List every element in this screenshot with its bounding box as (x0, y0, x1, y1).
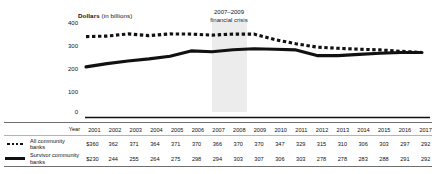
solid-line-swatch-icon (5, 157, 25, 160)
cell-all-2015: 303 (374, 141, 395, 147)
table-header-row: Year 2001 2002 2003 2004 2005 2006 2007 … (0, 125, 436, 134)
cell-all-2001: $360 (82, 141, 103, 147)
table-rule-bottom (4, 166, 432, 167)
header-year-2009: 2009 (250, 127, 271, 133)
cell-all-2013: 310 (332, 141, 353, 147)
header-year-2011: 2011 (291, 127, 312, 133)
cell-all-2009: 370 (249, 141, 270, 147)
header-year-2007: 2007 (208, 127, 229, 133)
header-year-label: Year (30, 126, 84, 132)
cell-surv-2012: 278 (311, 156, 332, 162)
header-year-2013: 2013 (332, 127, 353, 133)
table-row: All community banks $360 362 371 364 371… (0, 137, 436, 151)
header-year-2015: 2015 (374, 127, 395, 133)
table-row: Survivor community banks $230 244 255 26… (0, 152, 436, 165)
cell-all-2012: 315 (311, 141, 332, 147)
series-survivor-community-banks-line (86, 49, 422, 67)
legend-swatch-all-community-banks (0, 143, 30, 146)
header-year-2005: 2005 (167, 127, 188, 133)
chart-svg (0, 0, 436, 122)
cell-surv-2005: 275 (165, 156, 186, 162)
data-table: Year 2001 2002 2003 2004 2005 2006 2007 … (0, 122, 436, 174)
row-label-all-community-banks: All community banks (30, 138, 82, 151)
cell-all-2002: 362 (103, 141, 124, 147)
row-label-survivor-community-banks: Survivor community banks (30, 152, 82, 165)
cell-surv-2011: 303 (290, 156, 311, 162)
chart-figure: Dollars (in billions) 2007–2009 financia… (0, 0, 436, 174)
header-year-2001: 2001 (84, 127, 105, 133)
cell-all-2011: 329 (290, 141, 311, 147)
cell-surv-2003: 255 (124, 156, 145, 162)
cell-surv-2016: 291 (394, 156, 415, 162)
header-year-2017: 2017 (415, 127, 436, 133)
plot-area: Dollars (in billions) 2007–2009 financia… (0, 0, 436, 122)
legend-swatch-survivor-community-banks (0, 157, 30, 160)
cell-surv-2010: 306 (269, 156, 290, 162)
cell-all-2016: 297 (394, 141, 415, 147)
header-year-2010: 2010 (270, 127, 291, 133)
header-year-2003: 2003 (125, 127, 146, 133)
header-year-2006: 2006 (188, 127, 209, 133)
cell-all-2004: 364 (144, 141, 165, 147)
cell-surv-2007: 294 (207, 156, 228, 162)
cell-surv-2017: 292 (415, 156, 436, 162)
cell-surv-2009: 307 (249, 156, 270, 162)
header-year-2008: 2008 (229, 127, 250, 133)
cell-surv-2004: 264 (144, 156, 165, 162)
header-year-2002: 2002 (105, 127, 126, 133)
cell-all-2010: 347 (269, 141, 290, 147)
header-year-2016: 2016 (395, 127, 416, 133)
table-rule-top (4, 122, 432, 123)
cell-surv-2013: 278 (332, 156, 353, 162)
cell-surv-2006: 298 (186, 156, 207, 162)
cell-surv-2008: 303 (228, 156, 249, 162)
header-year-2012: 2012 (312, 127, 333, 133)
cell-surv-2001: $230 (82, 156, 103, 162)
cell-surv-2014: 283 (353, 156, 374, 162)
table-rule-mid (4, 135, 432, 136)
cell-all-2014: 306 (353, 141, 374, 147)
cell-all-2005: 371 (165, 141, 186, 147)
cell-all-2017: 292 (415, 141, 436, 147)
cell-surv-2002: 244 (103, 156, 124, 162)
header-year-2014: 2014 (353, 127, 374, 133)
header-year-2004: 2004 (146, 127, 167, 133)
cell-all-2003: 371 (124, 141, 145, 147)
cell-all-2008: 370 (228, 141, 249, 147)
cell-all-2007: 366 (207, 141, 228, 147)
cell-surv-2015: 288 (374, 156, 395, 162)
dotted-line-swatch-icon (7, 143, 22, 146)
cell-all-2006: 370 (186, 141, 207, 147)
